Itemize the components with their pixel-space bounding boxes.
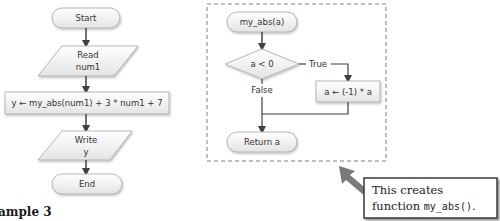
decision-node: a < 0 (225, 49, 299, 79)
start-node: Start (52, 8, 120, 28)
negate-process-node: a ← (-1) * a (316, 81, 380, 102)
end-label: End (79, 179, 95, 189)
end-node: End (52, 174, 122, 194)
callout-line2: function my_abs(). (372, 199, 476, 213)
callout-line1: This creates (372, 183, 443, 197)
write-label-line1: Write (75, 135, 97, 145)
read-label-line2: num1 (76, 62, 100, 72)
merge-line (262, 102, 348, 114)
return-label: Return a (244, 137, 280, 147)
read-node: Read num1 (38, 46, 138, 76)
example-caption: ample 3 (0, 205, 52, 219)
true-branch-arrow (331, 64, 348, 79)
function-flowchart: my_abs(a) a < 0 True a ← (-1) * a False … (225, 12, 380, 152)
write-label-line2: y (83, 147, 88, 157)
start-label: Start (76, 13, 97, 23)
callout-code: my_abs() (424, 201, 472, 213)
function-start-label: my_abs(a) (240, 17, 284, 27)
process-label: y ← my_abs(num1) + 3 * num1 + 7 (11, 98, 162, 108)
true-label: True (308, 59, 327, 69)
return-node: Return a (227, 132, 297, 152)
function-start-node: my_abs(a) (227, 12, 297, 32)
read-label-line1: Read (77, 50, 98, 60)
decision-label: a < 0 (250, 59, 273, 69)
false-label: False (251, 85, 272, 95)
callout: This creates function my_abs(). (339, 166, 497, 218)
callout-line2-suffix: . (472, 199, 476, 213)
flowchart-canvas: Start Read num1 y ← my_abs(num1) + 3 * n… (0, 0, 500, 221)
write-node: Write y (38, 131, 132, 160)
process-node: y ← my_abs(num1) + 3 * num1 + 7 (5, 92, 169, 114)
main-flowchart: Start Read num1 y ← my_abs(num1) + 3 * n… (5, 8, 169, 194)
negate-process-label: a ← (-1) * a (324, 87, 372, 97)
callout-line2-prefix: function (372, 199, 424, 213)
